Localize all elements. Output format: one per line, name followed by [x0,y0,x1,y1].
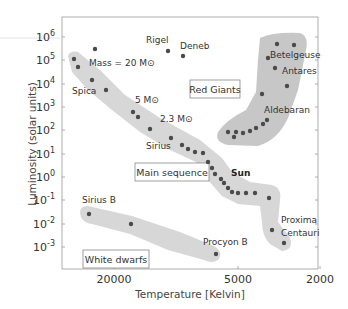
x-tick-label: 2000 [306,273,334,286]
star-point [136,115,140,119]
y-tick-label: 100 [36,169,55,184]
star-point [226,130,230,134]
star-label: Betelgeuse [270,50,321,60]
star-point [72,57,76,61]
star-point [131,110,135,114]
star-point [214,252,218,256]
star-label: Mass = 20 M⊙ [89,58,155,68]
star-point [186,147,190,151]
star-point [285,84,289,88]
star-label: Antares [282,66,317,76]
y-tick-label: 10-2 [33,216,55,231]
y-axis-title: Luminosity (solar units) [26,82,38,206]
star-label: 2.3 M⊙ [160,114,192,124]
star-point [248,129,252,133]
star-point [244,191,248,195]
star-point [166,49,170,53]
star-label: Sun [231,168,250,178]
star-point [104,88,108,92]
star-label: Procyon B [203,237,248,247]
region-label: Main sequence [136,167,208,178]
star-label: Sirius [146,141,171,151]
star-point [253,191,257,195]
star-point [169,136,173,140]
region-label: White dwarfs [85,254,148,265]
star-point [148,127,152,131]
star-point [129,222,133,226]
x-tick-label: 20000 [97,273,132,286]
star-point [193,150,197,154]
star-point [270,228,274,232]
star-point [254,126,258,130]
star-point [226,186,230,190]
star-point [232,135,236,139]
star-point [241,131,245,135]
star-point [213,172,217,176]
y-tick-label: 102 [36,122,55,137]
star-point [222,181,226,185]
star-point [201,151,205,155]
star-point [93,47,97,51]
y-tick-label: 106 [36,29,55,44]
star-point [261,122,265,126]
star-point [180,143,184,147]
star-label: Proxima [281,215,317,225]
y-tick-label: 10-3 [33,239,55,254]
star-label: 5 M⊙ [135,95,159,105]
star-label: Spica [72,86,96,96]
star-point [210,166,214,170]
star-label: Rigel [146,35,169,45]
hr-diagram: 10610510410310210110010-110-210-3 200005… [0,0,348,309]
star-point [267,196,271,200]
star-point [292,43,296,47]
star-point [273,66,277,70]
star-point [181,54,185,58]
star-point [265,118,269,122]
star-point [234,130,238,134]
star-point [275,42,279,46]
star-point [282,241,286,245]
star-label: Aldebaran [264,105,310,115]
star-point [90,78,94,82]
x-axis-title: Temperature [Kelvin] [134,288,245,300]
star-point [206,160,210,164]
star-point [87,212,91,216]
star-point [219,177,223,181]
y-tick-label: 101 [36,146,55,161]
star-label: Deneb [180,41,210,51]
x-tick-label: 5000 [224,273,252,286]
y-tick-label: 105 [36,52,55,67]
star-point [260,92,264,96]
star-point [76,65,80,69]
star-label: Sirius B [82,195,116,205]
star-label: Centauri [281,228,319,238]
y-tick-label: 104 [36,76,55,91]
star-point [236,191,240,195]
y-tick-label: 103 [36,99,55,114]
region-label: Red Giants [189,84,241,95]
star-point [230,190,234,194]
